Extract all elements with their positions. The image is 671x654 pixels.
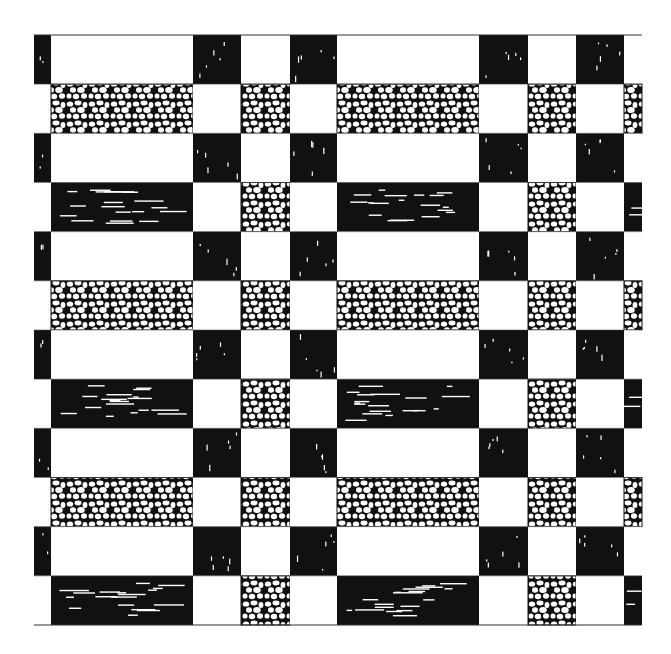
fleck bbox=[213, 50, 214, 55]
streak bbox=[375, 604, 394, 605]
fleck bbox=[321, 50, 322, 52]
streak bbox=[154, 604, 184, 605]
fleck bbox=[229, 446, 230, 449]
streak bbox=[629, 214, 656, 215]
black-cell bbox=[34, 428, 51, 477]
fleck bbox=[596, 346, 597, 352]
streak bbox=[128, 398, 152, 399]
fleck bbox=[586, 435, 587, 437]
streak bbox=[116, 211, 131, 212]
black-cell bbox=[290, 330, 337, 379]
fleck bbox=[601, 355, 602, 361]
black-cell bbox=[290, 428, 337, 477]
fleck bbox=[200, 346, 201, 350]
streak bbox=[136, 388, 151, 389]
white-cell bbox=[479, 576, 528, 625]
fleck bbox=[598, 43, 599, 45]
streak bbox=[437, 192, 453, 193]
white-cell bbox=[624, 527, 642, 576]
fleck bbox=[42, 245, 43, 250]
fleck bbox=[209, 465, 210, 471]
black-cell bbox=[290, 133, 337, 182]
fleck bbox=[508, 251, 509, 253]
fleck bbox=[600, 56, 601, 62]
white-cell bbox=[241, 35, 290, 84]
streak bbox=[615, 406, 640, 407]
white-cell bbox=[576, 478, 624, 527]
pebble-cell bbox=[528, 576, 576, 625]
streak bbox=[440, 583, 467, 584]
fleck bbox=[224, 42, 225, 46]
streak bbox=[369, 411, 390, 412]
streak bbox=[369, 215, 382, 216]
fleck bbox=[297, 556, 298, 562]
fleck bbox=[321, 456, 322, 458]
streak bbox=[423, 599, 434, 600]
streak bbox=[153, 588, 163, 589]
fleck bbox=[619, 52, 620, 56]
fleck bbox=[502, 450, 503, 453]
fleck bbox=[579, 539, 580, 544]
fleck bbox=[197, 150, 198, 153]
fleck bbox=[333, 541, 334, 543]
streak bbox=[444, 588, 452, 589]
fleck bbox=[334, 367, 335, 372]
white-cell bbox=[528, 133, 576, 182]
streak bbox=[118, 604, 134, 605]
fleck bbox=[486, 559, 487, 561]
white-cell bbox=[528, 527, 576, 576]
fleck bbox=[596, 66, 597, 71]
white-cell bbox=[528, 330, 576, 379]
fleck bbox=[220, 58, 221, 60]
fleck bbox=[486, 138, 487, 142]
streak bbox=[59, 590, 89, 591]
fleck bbox=[207, 167, 208, 173]
fleck bbox=[594, 274, 595, 280]
streak bbox=[139, 410, 149, 411]
streak-cell bbox=[624, 576, 642, 625]
streak bbox=[405, 397, 426, 398]
fleck bbox=[325, 471, 326, 473]
streak bbox=[386, 611, 402, 612]
streak bbox=[354, 194, 372, 195]
black-cell bbox=[290, 232, 337, 281]
streak bbox=[442, 396, 470, 397]
fleck bbox=[520, 57, 521, 60]
fleck bbox=[502, 552, 503, 557]
streak bbox=[347, 392, 360, 393]
black-cell bbox=[34, 232, 51, 281]
fleck bbox=[199, 73, 200, 77]
black-cell bbox=[576, 330, 624, 379]
fleck bbox=[497, 436, 498, 441]
streak bbox=[414, 194, 424, 195]
fleck bbox=[523, 357, 524, 359]
fleck bbox=[485, 75, 486, 78]
streak bbox=[362, 413, 382, 414]
streak bbox=[151, 409, 179, 410]
fleck bbox=[236, 267, 237, 271]
pebble-cell bbox=[51, 281, 193, 330]
fleck bbox=[616, 249, 617, 252]
streak bbox=[443, 207, 449, 208]
streak bbox=[421, 205, 440, 206]
fleck bbox=[614, 170, 615, 172]
black-cell bbox=[576, 428, 624, 477]
fleck bbox=[223, 556, 224, 558]
fleck bbox=[224, 353, 225, 355]
fleck bbox=[206, 65, 207, 67]
fleck bbox=[514, 256, 515, 260]
fleck bbox=[325, 263, 326, 266]
fleck bbox=[316, 444, 317, 450]
streak bbox=[66, 597, 74, 598]
white-cell bbox=[51, 35, 193, 84]
black-cell bbox=[193, 330, 241, 379]
fleck bbox=[208, 249, 209, 252]
fleck bbox=[48, 467, 49, 470]
streak bbox=[110, 220, 133, 221]
streak bbox=[347, 610, 353, 611]
fleck bbox=[39, 459, 40, 462]
fleck bbox=[229, 559, 230, 565]
streak bbox=[101, 206, 124, 207]
weave-svg bbox=[0, 0, 671, 654]
streak bbox=[403, 588, 430, 589]
